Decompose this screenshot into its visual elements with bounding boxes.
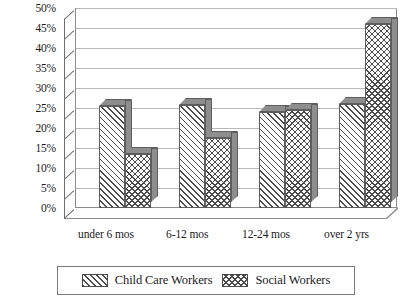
bar-group xyxy=(99,8,169,208)
bar-social-workers[interactable] xyxy=(285,110,311,208)
y-tick-label: 50% xyxy=(6,3,56,14)
legend-label: Child Care Workers xyxy=(115,273,213,288)
bar-side-face xyxy=(151,148,158,202)
floor-front-edge xyxy=(64,218,386,219)
x-tick-label-over-2-yrs: over 2 yrs xyxy=(324,228,369,240)
bar-front-face xyxy=(285,110,311,208)
bar-group xyxy=(259,8,329,208)
y-tick-label: 35% xyxy=(6,63,56,74)
legend-label: Social Workers xyxy=(255,273,330,288)
chart-legend: Child Care Workers Social Workers xyxy=(57,266,355,295)
y-tick-label: 10% xyxy=(6,163,56,174)
bar-child-care-workers[interactable] xyxy=(179,105,205,208)
bar-front-face xyxy=(179,105,205,208)
bar-group xyxy=(179,8,249,208)
bar-group xyxy=(339,8,409,208)
bar-child-care-workers[interactable] xyxy=(259,112,285,208)
x-tick-label-12-24-mos: 12-24 mos xyxy=(242,228,290,240)
y-tick-label: 25% xyxy=(6,103,56,114)
y-tick-label: 0% xyxy=(6,203,56,214)
y-tick-label: 30% xyxy=(6,83,56,94)
bar-side-face xyxy=(391,18,398,202)
legend-swatch-cross-hatch-icon xyxy=(222,274,248,287)
x-tick-label-6-12-mos: 6-12 mos xyxy=(166,228,208,240)
y-axis-line xyxy=(64,19,65,219)
bar-side-face xyxy=(231,132,238,202)
bar-child-care-workers[interactable] xyxy=(339,104,365,208)
legend-item-child-care-workers[interactable]: Child Care Workers xyxy=(82,273,213,288)
y-tick-label: 40% xyxy=(6,43,56,54)
bar-front-face xyxy=(365,24,391,208)
bar-social-workers[interactable] xyxy=(205,138,231,208)
y-tick-label: 45% xyxy=(6,23,56,34)
plot-area xyxy=(64,8,397,219)
legend-swatch-diagonal-hatch-icon xyxy=(82,274,108,287)
bar-side-face xyxy=(311,104,318,202)
bar-front-face xyxy=(125,154,151,208)
bar-front-face xyxy=(205,138,231,208)
bar-front-face xyxy=(99,106,125,208)
bar-social-workers[interactable] xyxy=(365,24,391,208)
bar-chart: 50% 45% 40% 35% 30% 25% 20% 15% 10% 5% 0… xyxy=(0,0,413,303)
y-tick-label: 5% xyxy=(6,183,56,194)
y-axis-tick xyxy=(64,207,76,219)
bars-layer xyxy=(75,8,397,208)
y-tick-label: 15% xyxy=(6,143,56,154)
bar-front-face xyxy=(259,112,285,208)
legend-item-social-workers[interactable]: Social Workers xyxy=(222,273,330,288)
bar-social-workers[interactable] xyxy=(125,154,151,208)
y-tick-label: 20% xyxy=(6,123,56,134)
bar-child-care-workers[interactable] xyxy=(99,106,125,208)
bar-front-face xyxy=(339,104,365,208)
x-tick-label-under-6-mos: under 6 mos xyxy=(78,228,134,240)
